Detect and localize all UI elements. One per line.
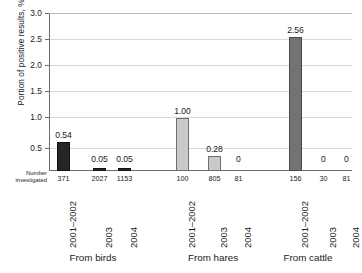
y-tick-label-1.0: 1.0 [2, 113, 42, 121]
x-tick-text: 2001–2002 [187, 201, 197, 248]
group-title-hares: From hares [158, 252, 268, 263]
bar-cattle-2001-2002 [289, 37, 302, 171]
y-tick-label-0.5: 0.5 [2, 144, 42, 152]
number-investigated-cattle-2001-2002: 156 [280, 175, 311, 183]
number-investigated-hares-2004: 81 [223, 175, 254, 183]
x-tick-label-hares-2001-2002: 2001–2002 [187, 188, 197, 248]
bar-birds-2004 [118, 168, 131, 171]
gridline-1.0 [50, 117, 352, 118]
number-investigated-cattle-2004: 81 [331, 175, 362, 183]
y-tick-label-2.0: 2.0 [2, 61, 42, 69]
bar-value-birds-2004: 0.05 [109, 155, 140, 164]
bar-birds-2001-2002 [57, 142, 70, 171]
gridline-2.5 [50, 39, 352, 40]
bar-hares-2001-2002 [176, 118, 189, 171]
x-tick-text: 2003 [219, 227, 229, 248]
x-tick-label-hares-2004: 2004 [243, 188, 253, 248]
x-tick-text: 2001–2002 [300, 201, 310, 248]
x-tick-label-cattle-2004: 2004 [351, 188, 361, 248]
bar-value-hares-2004: 0 [223, 155, 254, 164]
number-investigated-birds-2001-2002: 371 [48, 175, 79, 183]
x-tick-text: 2004 [243, 227, 253, 248]
number-investigated-caption-line2: investigated [1, 177, 47, 184]
bar-value-cattle-2004: 0 [331, 155, 362, 164]
x-tick-label-hares-2003: 2003 [219, 188, 229, 248]
group-title-birds: From birds [38, 252, 148, 263]
gridline-2.0 [50, 65, 352, 66]
bar-hares-2003 [208, 156, 221, 171]
bar-value-hares-2003: 0.28 [199, 145, 230, 154]
y-tick-label-2.5: 2.5 [2, 35, 42, 43]
x-tick-label-cattle-2003: 2003 [328, 188, 338, 248]
group-title-cattle: From cattle [258, 252, 358, 263]
number-investigated-caption: Number investigated [1, 170, 47, 183]
gridline-1.5 [50, 91, 352, 92]
y-tick-label-3.0: 3.0 [2, 9, 42, 17]
x-tick-text: 2003 [104, 227, 114, 248]
x-tick-label-cattle-2001-2002: 2001–2002 [300, 188, 310, 248]
bar-value-hares-2001-2002: 1.00 [167, 107, 198, 116]
number-investigated-caption-line1: Number [1, 170, 47, 177]
x-tick-text: 2001–2002 [68, 201, 78, 248]
x-tick-text: 2003 [328, 227, 338, 248]
bar-value-cattle-2001-2002: 2.56 [280, 26, 311, 35]
x-tick-text: 2004 [351, 227, 361, 248]
x-tick-text: 2004 [129, 227, 139, 248]
bar-birds-2003 [93, 168, 106, 171]
x-tick-label-birds-2003: 2003 [104, 188, 114, 248]
x-tick-label-birds-2004: 2004 [129, 188, 139, 248]
number-investigated-birds-2004: 1153 [109, 175, 140, 183]
bar-chart: Portion of positive results, % 3.0 2.5 2… [0, 0, 362, 273]
y-tick-label-1.5: 1.5 [2, 87, 42, 95]
number-investigated-hares-2001-2002: 100 [167, 175, 198, 183]
bar-value-birds-2001-2002: 0.54 [48, 131, 79, 140]
x-tick-label-birds-2001-2002: 2001–2002 [68, 188, 78, 248]
